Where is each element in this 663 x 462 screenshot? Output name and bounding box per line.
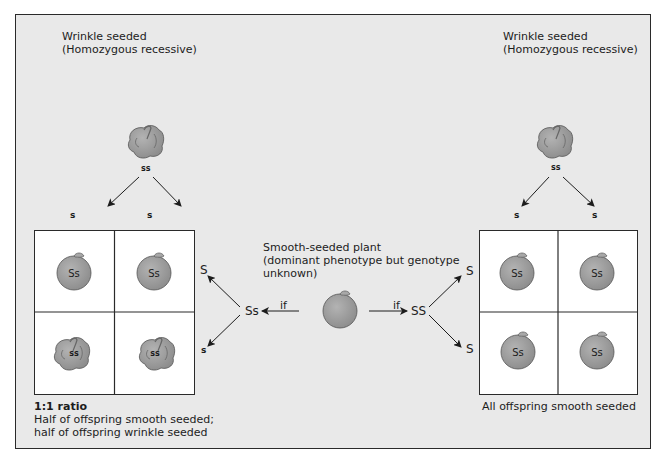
left-gamete-2: s: [147, 210, 152, 220]
right-parent-genotype: ss: [551, 163, 561, 172]
right-parent-title: Wrinkle seeded: [503, 30, 588, 43]
center-plant-desc-2: unknown): [263, 267, 317, 280]
right-punnett-square: [479, 230, 638, 395]
left-parent-subtitle: (Homozygous recessive): [62, 43, 197, 56]
if-right-label: if: [393, 299, 400, 312]
left-result-line-2: half of offspring wrinkle seeded: [34, 426, 208, 439]
left-cross-gamete-top: S: [200, 263, 208, 277]
right-gamete-2: s: [592, 210, 597, 220]
left-parent-genotype: ss: [141, 164, 151, 173]
center-plant-desc-1: (dominant phenotype but genotype: [263, 254, 460, 267]
left-punnett-square: [34, 230, 195, 395]
genotype-right-hypothesis: SS: [411, 305, 426, 318]
right-gamete-1: s: [514, 210, 519, 220]
right-cross-gamete-top: S: [466, 264, 474, 278]
left-result-line-1: Half of offspring smooth seeded;: [34, 413, 214, 426]
right-result-line-1: All offspring smooth seeded: [482, 400, 636, 413]
left-result-title: 1:1 ratio: [34, 400, 87, 413]
right-cross-gamete-bottom: S: [466, 342, 474, 356]
if-left-label: if: [280, 299, 287, 312]
left-gamete-1: s: [70, 210, 75, 220]
left-cross-gamete-bottom: s: [201, 345, 206, 355]
left-parent-title: Wrinkle seeded: [62, 30, 147, 43]
right-parent-subtitle: (Homozygous recessive): [503, 43, 638, 56]
genotype-left-hypothesis: Ss: [245, 305, 259, 318]
center-plant-title: Smooth-seeded plant: [263, 241, 381, 254]
